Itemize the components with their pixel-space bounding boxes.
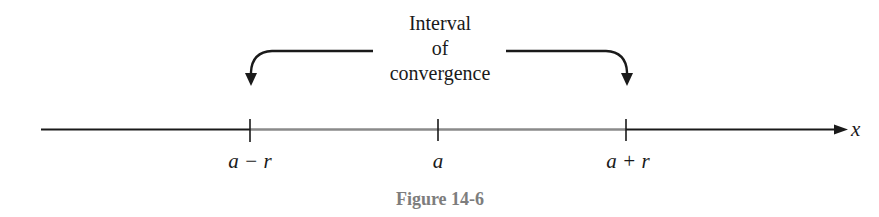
- tick-label-a-plus-r: a + r: [606, 149, 650, 173]
- annotation-line-3: convergence: [390, 62, 491, 85]
- right-pointer-arrow-icon: [506, 51, 633, 86]
- x-axis: x: [41, 117, 861, 141]
- number-line-diagram: Interval of convergence x a − r a a + r …: [0, 0, 879, 217]
- figure-caption: Figure 14-6: [396, 189, 484, 209]
- tick-labels: a − r a a + r: [228, 149, 650, 173]
- tick-label-a-minus-r: a − r: [228, 149, 272, 173]
- annotation-line-2: of: [432, 37, 449, 59]
- axis-label-x: x: [850, 117, 861, 141]
- annotation-line-1: Interval: [409, 12, 472, 34]
- left-pointer-arrow-icon: [245, 51, 373, 86]
- axis-arrow-icon: [834, 125, 848, 135]
- interval-annotation: Interval of convergence: [390, 12, 491, 85]
- tick-label-a: a: [433, 149, 444, 173]
